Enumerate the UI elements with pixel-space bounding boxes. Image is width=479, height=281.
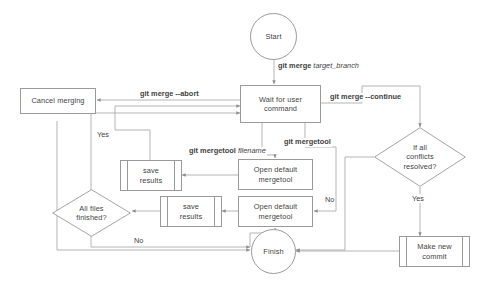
edge-label-git-merge-target-branch: git merge target_branch (277, 62, 360, 71)
edge-label-git-merge-continue: git merge --continue (329, 93, 402, 102)
predef-bar-left (127, 161, 128, 190)
predef-bar-right (462, 237, 463, 266)
node-save-results-top-line1: save (143, 166, 159, 175)
node-finish-label: Finish (263, 247, 283, 256)
node-wait-for-user-command[interactable]: Wait for user command (240, 85, 321, 123)
node-save-results-bottom[interactable]: save results (160, 196, 222, 227)
node-all-files-line2: finished? (63, 213, 120, 222)
node-mergetool-bottom-line1: Open default (254, 202, 298, 211)
node-finish[interactable]: Finish (251, 229, 296, 274)
edge-label-text: Yes (412, 194, 424, 203)
edge-label-text: No (325, 195, 334, 204)
edge-label-git-mergetool: git mergetool (283, 138, 332, 147)
predef-bar-right (214, 197, 215, 226)
node-cancel-merging-label: Cancel merging (31, 96, 84, 105)
edge-label-arg: target_branch (313, 61, 359, 70)
node-conflicts-line2: conflicts (387, 152, 453, 161)
node-start[interactable]: Start (250, 13, 297, 60)
node-open-default-mergetool-bottom[interactable]: Open default mergetool (238, 196, 313, 227)
edge-label-no-bottom: No (133, 236, 144, 245)
edge-label-cmd: git mergetool (189, 146, 238, 155)
edge-label-cmd: git mergetool (284, 137, 331, 146)
edge-label-no-right: No (324, 195, 335, 204)
node-mergetool-bottom-line2: mergetool (259, 212, 293, 221)
node-save-results-top[interactable]: save results (120, 160, 182, 191)
node-all-files-line1: All files (63, 204, 120, 213)
node-mergetool-top-line1: Open default (254, 165, 298, 174)
node-cancel-merging[interactable]: Cancel merging (20, 88, 96, 114)
node-wait-line2: command (264, 104, 297, 113)
edge-label-cmd: git merge --continue (330, 92, 401, 101)
edge-label-yes-left: Yes (96, 130, 110, 139)
node-wait-line1: Wait for user (259, 95, 302, 104)
node-save-results-bottom-line1: save (183, 202, 199, 211)
node-open-default-mergetool-top[interactable]: Open default mergetool (238, 159, 313, 190)
predef-bar-right (174, 161, 175, 190)
edge-label-yes-right: Yes (411, 194, 425, 203)
node-save-results-bottom-line2: results (180, 212, 202, 221)
node-start-label: Start (265, 32, 281, 41)
edge-label-git-mergetool-filename: git mergetool filename (188, 147, 267, 156)
node-conflicts-line3: resolved? (387, 162, 453, 171)
edge-label-cmd: git merge --abort (140, 89, 199, 98)
node-all-files-finished[interactable]: All files finished? (52, 189, 131, 237)
edge-label-text: No (134, 236, 143, 245)
edge-allfiles-no (91, 236, 250, 247)
edge-label-arg: filename (238, 146, 266, 155)
predef-bar-left (167, 197, 168, 226)
flowchart-canvas: Start Cancel merging Wait for user comma… (0, 0, 479, 281)
node-mergetool-top-line2: mergetool (259, 175, 293, 184)
node-make-new-commit[interactable]: Make new commit (399, 236, 470, 267)
edge-label-cmd: git merge (278, 61, 313, 70)
node-if-all-conflicts-resolved[interactable]: If all conflicts resolved? (374, 127, 466, 187)
node-make-new-commit-line2: commit (422, 252, 446, 261)
node-save-results-top-line2: results (140, 176, 162, 185)
edge-label-text: Yes (97, 130, 109, 139)
edge-label-git-merge-abort: git merge --abort (139, 90, 200, 99)
node-make-new-commit-line1: Make new (417, 242, 451, 251)
predef-bar-left (406, 237, 407, 266)
node-conflicts-line1: If all (387, 143, 453, 152)
